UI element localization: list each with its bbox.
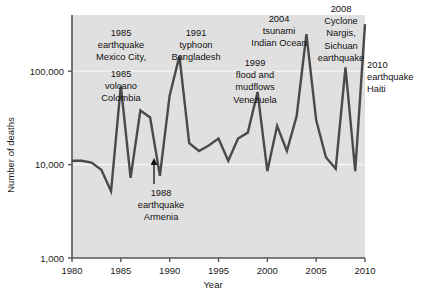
annotation-line: Venezuela [233,95,277,105]
annotation-line: flood and [236,70,274,80]
annotation-line: 1999 [245,58,266,68]
x-tick-label-0: 1980 [61,265,82,276]
deaths-vs-year-line-chart: 1,00010,000100,000 198019851990199520002… [0,0,426,304]
annotation-line: Indian Ocean [251,38,306,48]
annotation-line: Armenia [144,212,179,222]
x-tick-label-3: 1995 [208,265,229,276]
x-tick-label-4: 2000 [257,265,278,276]
annotation-line: 1988 [151,188,172,198]
annotation-line: Cyclone [324,16,358,26]
annotation-line: 1985 [111,69,132,79]
annotation-line: mudflows [235,82,275,92]
annotation-line: Nargis, [326,28,355,38]
annotation-line: Sichuan [324,41,358,51]
annotation-line: Colombia [101,93,141,103]
annotation-line: volcano [105,81,137,91]
annotation-line: 2010 [367,60,388,70]
x-tick-label-1: 1985 [110,265,131,276]
y-tick-label-0: 1,000 [40,253,64,264]
annotation-line: earthquake [138,200,185,210]
x-axis-title: Year [203,279,222,290]
annotation-line: typhoon [179,40,212,50]
annotation-line: 2008 [331,4,352,14]
x-tick-label-6: 2010 [354,265,375,276]
x-tick-label-2: 1990 [159,265,180,276]
annotation-line: Bangladesh [171,52,220,62]
annotation-line: 1991 [186,28,207,38]
annotation-line: earthquake [318,53,365,63]
x-tick-label-5: 2005 [306,265,327,276]
annotation-line: earthquake [367,72,414,82]
annotation-line: 1985 [111,28,132,38]
annotation-line: 2004 [269,14,290,24]
annotation-line: Mexico City, [96,52,146,62]
y-axis-title: Number of deaths [5,117,16,193]
annotation-line: earthquake [98,40,145,50]
chart-root: 1,00010,000100,000 198019851990199520002… [0,0,426,304]
annotation-line: tsunami [263,26,296,36]
annotation-line: Haiti [367,84,386,94]
y-tick-label-1: 10,000 [35,159,64,170]
y-tick-label-2: 100,000 [30,66,64,77]
